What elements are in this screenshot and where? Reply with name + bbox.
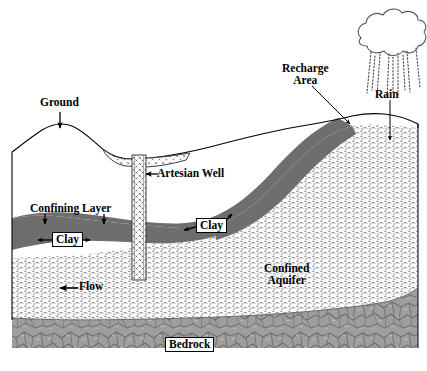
label-confined-aquifer: Confined Aquifer bbox=[264, 262, 309, 286]
label-bedrock: Bedrock bbox=[165, 337, 214, 352]
label-clay-left: Clay bbox=[52, 232, 83, 247]
label-confined-aquifer-line2: Aquifer bbox=[268, 274, 306, 286]
label-artesian-well: Artesian Well bbox=[157, 167, 224, 179]
label-recharge-area-line2: Area bbox=[293, 74, 317, 86]
hydrogeology-cross-section bbox=[0, 0, 427, 371]
label-confining-layer: Confining Layer bbox=[30, 202, 111, 214]
label-clay-right: Clay bbox=[196, 218, 227, 233]
label-recharge-area: Recharge Area bbox=[282, 62, 329, 86]
label-confined-aquifer-line1: Confined bbox=[264, 262, 309, 274]
label-flow: Flow bbox=[79, 280, 103, 292]
label-ground: Ground bbox=[40, 96, 79, 108]
artesian-well bbox=[132, 155, 146, 280]
alluvium-deposit bbox=[104, 150, 190, 167]
label-recharge-area-line1: Recharge bbox=[282, 62, 329, 74]
recharge-area-leader bbox=[312, 86, 350, 124]
label-rain: Rain bbox=[375, 88, 399, 100]
diagram-canvas: Ground Artesian Well Confining Layer Cla… bbox=[0, 0, 427, 371]
